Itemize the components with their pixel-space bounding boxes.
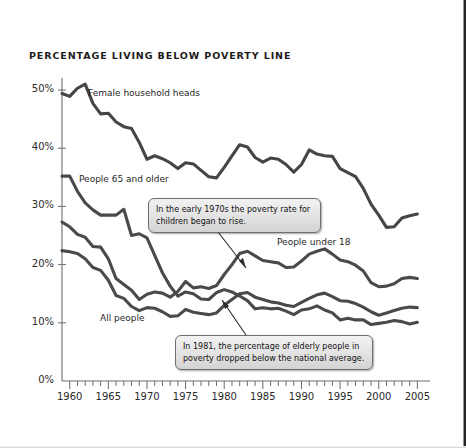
x-axis-label: 1980	[204, 391, 244, 402]
y-axis-label: 20%	[20, 258, 54, 269]
series-label-female-household-heads: Female household heads	[88, 88, 200, 98]
series-label-people-under-18: People under 18	[277, 237, 350, 247]
x-axis-label: 1965	[88, 391, 128, 402]
series-label-people-65-and-older: People 65 and older	[79, 174, 169, 184]
y-axis-label: 30%	[20, 199, 54, 210]
y-axis-label: 0%	[20, 374, 54, 385]
x-axis-label: 2005	[397, 391, 437, 402]
x-axis-label: 1990	[281, 391, 321, 402]
series-label-all-people: All people	[100, 313, 145, 323]
callout-elderly: In 1981, the percentage of elderly peopl…	[175, 335, 373, 370]
y-axis-label: 40%	[20, 141, 54, 152]
y-axis-label: 10%	[20, 316, 54, 327]
y-axis-label: 50%	[20, 83, 54, 94]
x-axis-label: 1995	[320, 391, 360, 402]
callout-children: In the early 1970s the poverty rate for …	[148, 198, 321, 233]
chart-page: PERCENTAGE LIVING BELOW POVERTY LINE 0%1…	[0, 0, 466, 448]
x-axis-label: 1975	[166, 391, 206, 402]
x-axis-label: 1985	[243, 391, 283, 402]
x-axis-label: 2000	[359, 391, 399, 402]
x-axis-label: 1970	[127, 391, 167, 402]
x-axis-label: 1960	[50, 391, 90, 402]
